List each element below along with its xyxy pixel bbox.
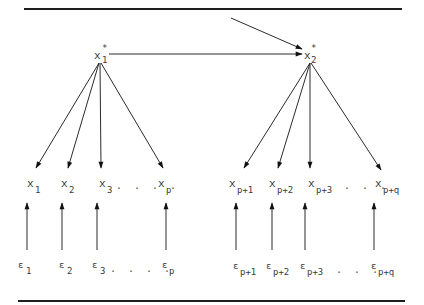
factor-1-loadings — [36, 63, 163, 168]
loading-arrow-xp — [101, 63, 163, 168]
error-e2: ε — [59, 260, 64, 270]
indicator-xp3: x — [308, 177, 315, 190]
error-e1-sub: 1 — [26, 266, 31, 276]
error-ep-sub: p — [169, 266, 174, 276]
indicator-x1: x — [27, 177, 34, 190]
loading-arrow-x1 — [36, 63, 99, 168]
indicator-xpq-sub: p+q — [383, 185, 399, 195]
error-e3: ε — [92, 260, 97, 270]
factor-1-sub: 1 — [102, 55, 107, 65]
indicator-xp: x — [158, 177, 165, 190]
path-diagram: x * 1 x * 2 x 1 x 2 x 3 . . . . x p x — [0, 0, 424, 305]
error-e1: ε — [18, 260, 23, 270]
indicators-left: x 1 x 2 x 3 . . . . x p — [27, 177, 179, 195]
factor-2-symbol: x — [304, 49, 311, 62]
loading-arrow-x2 — [68, 63, 99, 168]
latent-factor-2: x * 2 — [304, 43, 316, 65]
indicator-x3-sub: 3 — [107, 185, 112, 195]
factor-2-sup: * — [311, 43, 316, 53]
error-e2-sub: 2 — [67, 266, 72, 276]
error-ep: ε — [162, 260, 167, 270]
indicator-xpq: x — [375, 177, 382, 190]
error-ep3: ε — [300, 261, 305, 271]
error-ep2-sub: p+2 — [273, 267, 289, 277]
indicator-x2-sub: 2 — [69, 185, 74, 195]
error-e3-sub: 3 — [100, 266, 105, 276]
factor-1-symbol: x — [94, 49, 101, 62]
error-epq-sub: p+q — [378, 267, 394, 277]
indicators-right: x p+1 x p+2 x p+3 . . . x p+q — [229, 177, 399, 195]
factor-1-sup: * — [102, 43, 107, 53]
error-ep1: ε — [233, 261, 238, 271]
indicator-x1-sub: 1 — [35, 185, 40, 195]
indicator-xp2: x — [269, 177, 276, 190]
loading-arrow-xp2 — [278, 63, 310, 168]
external-to-factor-2-arrow — [231, 18, 302, 49]
errors-right: ε p+1 ε p+2 ε p+3 . . . ε p+q — [233, 261, 394, 277]
error-arrows-left — [27, 203, 166, 250]
loading-arrow-x3 — [100, 63, 101, 168]
loading-arrow-xp1 — [244, 63, 310, 168]
factor-2-loadings — [244, 63, 381, 170]
error-ep2: ε — [266, 261, 271, 271]
indicator-x2: x — [61, 177, 68, 190]
error-epq: ε — [371, 261, 376, 271]
error-ep1-sub: p+1 — [240, 267, 256, 277]
loading-arrow-xpq — [311, 63, 381, 170]
error-arrows-right — [236, 203, 374, 250]
indicator-xp-sub: p — [166, 185, 171, 195]
indicator-x3: x — [99, 177, 106, 190]
indicator-xp1: x — [229, 177, 236, 190]
latent-factor-1: x * 1 — [94, 43, 107, 65]
indicator-xp1-sub: p+1 — [237, 185, 253, 195]
indicator-xp2-sub: p+2 — [277, 185, 293, 195]
error-ep3-sub: p+3 — [307, 267, 323, 277]
indicator-xp3-sub: p+3 — [316, 185, 332, 195]
errors-left: ε 1 ε 2 ε 3 . . . . ε p — [18, 260, 174, 276]
